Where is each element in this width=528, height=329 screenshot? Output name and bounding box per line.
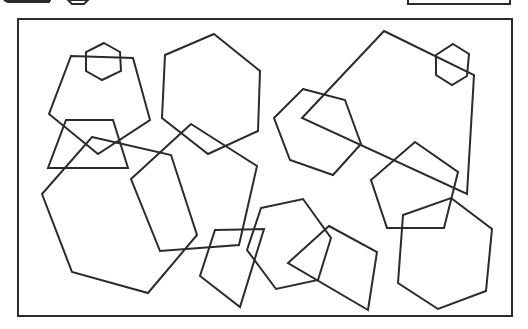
clipped-rectangle-box	[408, 0, 510, 4]
clipped-hexagon-icon	[68, 0, 88, 4]
hexagon-bottom-right	[398, 198, 492, 309]
polygon-group	[42, 31, 492, 310]
quad-large-top-right	[302, 31, 474, 194]
clipped-dark-button	[4, 0, 50, 2]
clipped-toolbar-elements	[4, 0, 510, 4]
hexagon-small-top-left	[86, 43, 121, 80]
quad-bottom-center-right	[288, 226, 377, 310]
shapes-canvas	[0, 0, 528, 329]
drawing-canvas	[0, 0, 528, 329]
hexagon-large-left	[42, 137, 197, 293]
trapezoid-left	[48, 120, 128, 168]
quad-bottom-center	[200, 229, 264, 307]
